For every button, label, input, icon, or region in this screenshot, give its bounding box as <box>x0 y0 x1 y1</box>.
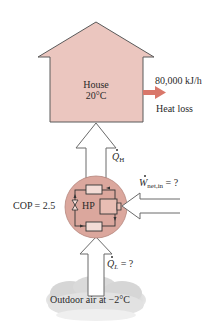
house-name: House <box>76 79 116 90</box>
heat-loss-arrow-icon <box>143 86 166 99</box>
heat-loss-label: Heat loss <box>156 103 193 114</box>
heat-from-outdoor-label: QL = ? <box>107 258 133 273</box>
heat-to-house-arrow-icon <box>76 123 116 178</box>
w-value: = ? <box>163 177 178 188</box>
cop-label: COP = 2.5 <box>13 200 55 211</box>
work-input-label: Wnet,in = ? <box>139 177 178 192</box>
q-symbol: Q <box>112 151 119 162</box>
heat-loss-rate: 80,000 kJ/h <box>155 75 202 86</box>
work-input-arrow-icon <box>122 193 190 219</box>
house-temperature: 20°C <box>76 90 116 101</box>
heat-pump-circle <box>65 176 127 238</box>
outdoor-label: Outdoor air at −2°C <box>50 294 130 305</box>
heat-pump-diagram <box>0 0 219 325</box>
w-dot <box>144 175 146 177</box>
q-subscript: H <box>119 156 124 164</box>
ql-value: = ? <box>118 258 133 269</box>
hp-label: HP <box>82 200 95 211</box>
house-label: House 20°C <box>76 79 116 101</box>
q-l-dot <box>111 256 113 258</box>
q-h-dot <box>116 149 118 151</box>
house-shape <box>38 22 154 122</box>
heat-to-house-label: QH <box>112 151 124 166</box>
w-subscript: net,in <box>147 182 163 190</box>
